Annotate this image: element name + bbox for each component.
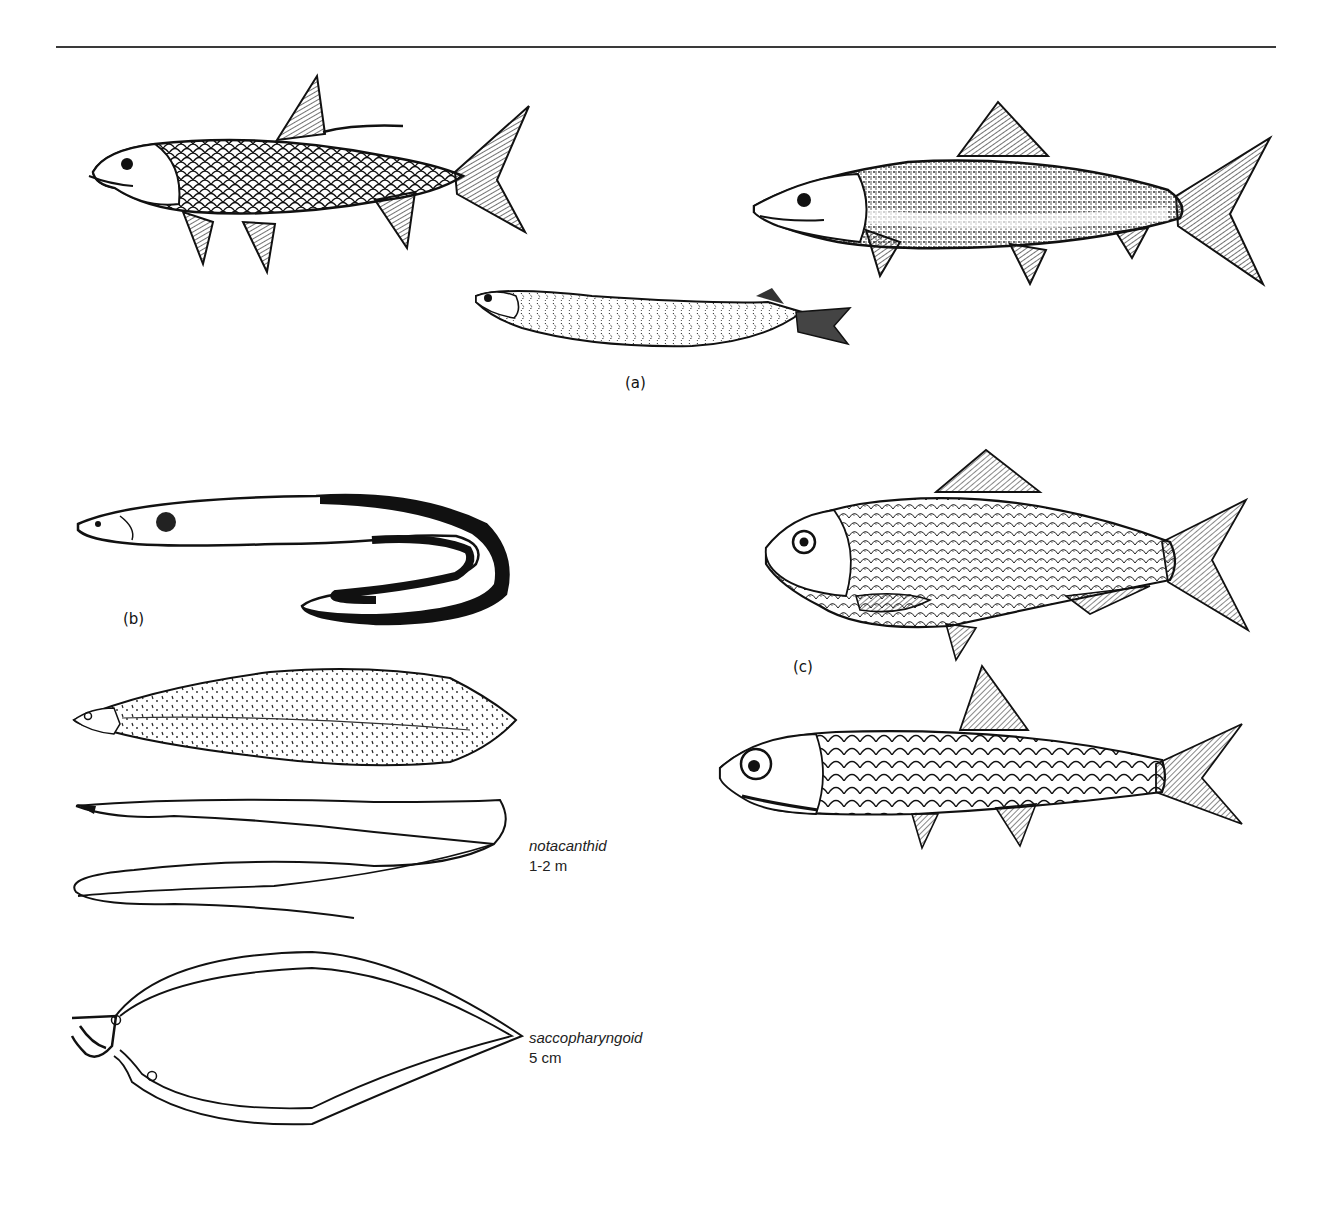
caption-saccopharyngoid: saccopharyngoid 5 cm — [529, 1028, 642, 1068]
leptocephalus-larva-illustration — [70, 658, 525, 768]
fish-bonefish-illustration — [748, 96, 1273, 291]
caption-notacanthid-size: 1-2 m — [529, 856, 607, 876]
notacanthid-larva-illustration — [74, 796, 524, 922]
fish-herring-illustration — [750, 446, 1255, 666]
top-rule — [56, 46, 1276, 48]
caption-notacanthid-name: notacanthid — [529, 836, 607, 856]
larva-illustration-panel-a — [472, 282, 857, 354]
caption-notacanthid: notacanthid 1-2 m — [529, 836, 607, 876]
fish-tarpon-illustration — [85, 72, 535, 277]
fish-anchovy-illustration — [716, 664, 1246, 844]
caption-saccopharyngoid-size: 5 cm — [529, 1048, 642, 1068]
saccopharyngoid-larva-illustration — [72, 944, 527, 1144]
panel-label-b: (b) — [123, 610, 144, 628]
panel-label-a: (a) — [625, 374, 646, 392]
caption-saccopharyngoid-name: saccopharyngoid — [529, 1028, 642, 1048]
